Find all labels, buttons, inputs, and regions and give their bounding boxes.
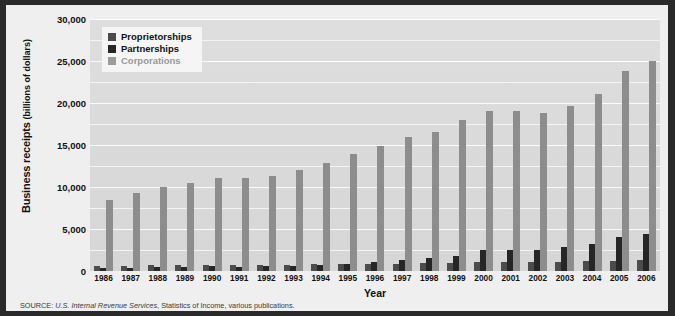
legend-swatch-proprietorships: [108, 33, 116, 41]
bar-group-2001: [497, 19, 524, 271]
source-note: SOURCE: U.S. Internal Revenue Services, …: [20, 301, 295, 310]
bar-corporations-2000: [486, 111, 493, 271]
x-axis-tick-2004: 2004: [579, 273, 606, 287]
x-axis-tick-1998: 1998: [416, 273, 443, 287]
y-axis-tick-0: 0: [30, 266, 86, 277]
bar-corporations-2001: [513, 111, 520, 271]
bar-group-2000: [470, 19, 497, 271]
bar-group-2002: [524, 19, 551, 271]
y-axis-tick-10000: 10,000: [30, 182, 86, 193]
source-rest: , Statistics of Income, various publicat…: [157, 301, 295, 310]
bar-corporations-1993: [296, 170, 303, 271]
x-axis-tick-1988: 1988: [144, 273, 171, 287]
x-axis-tick-1994: 1994: [307, 273, 334, 287]
legend-item-partnerships: Partnerships: [108, 43, 192, 55]
bar-corporations-1995: [350, 154, 357, 271]
bar-corporations-1996: [377, 146, 384, 271]
bar-corporations-1990: [215, 178, 222, 271]
bar-corporations-1987: [133, 193, 140, 271]
bar-group-1994: [307, 19, 334, 271]
bar-group-1993: [280, 19, 307, 271]
legend-swatch-corporations: [108, 57, 116, 65]
bar-group-2006: [633, 19, 660, 271]
legend-label-proprietorships: Proprietorships: [121, 31, 192, 43]
bar-corporations-1988: [160, 187, 167, 271]
y-axis-tick-20000: 20,000: [30, 98, 86, 109]
x-axis-tick-1993: 1993: [280, 273, 307, 287]
x-axis-tick-1987: 1987: [117, 273, 144, 287]
x-axis-tick-2006: 2006: [633, 273, 660, 287]
bar-corporations-2005: [622, 71, 629, 271]
bar-group-1996: [361, 19, 388, 271]
x-axis-tick-labels: 1986198719881989199019911992199319941995…: [90, 273, 660, 287]
bar-group-1999: [443, 19, 470, 271]
bar-group-2003: [551, 19, 578, 271]
bar-corporations-1991: [242, 178, 249, 271]
legend-label-corporations: Corporations: [121, 55, 181, 67]
legend-item-proprietorships: Proprietorships: [108, 31, 192, 43]
x-axis-tick-1995: 1995: [334, 273, 361, 287]
bar-corporations-2006: [649, 61, 656, 271]
bar-corporations-1992: [269, 176, 276, 271]
legend-swatch-partnerships: [108, 45, 116, 53]
x-axis-tick-1986: 1986: [90, 273, 117, 287]
x-axis-tick-1990: 1990: [199, 273, 226, 287]
legend-label-partnerships: Partnerships: [121, 43, 179, 55]
x-axis-title: Year: [90, 287, 660, 299]
bar-group-1990: [199, 19, 226, 271]
bar-corporations-1998: [432, 132, 439, 271]
bar-group-2004: [579, 19, 606, 271]
bar-group-1998: [416, 19, 443, 271]
y-axis-tick-5000: 5,000: [30, 224, 86, 235]
bar-group-1992: [253, 19, 280, 271]
bar-corporations-2004: [595, 94, 602, 271]
bar-group-1991: [226, 19, 253, 271]
x-axis-tick-1996: 1996: [361, 273, 388, 287]
y-axis-tick-25000: 25,000: [30, 56, 86, 67]
chart-legend: ProprietorshipsPartnershipsCorporations: [102, 27, 202, 72]
bar-corporations-1986: [106, 200, 113, 271]
bar-corporations-1997: [405, 137, 412, 271]
x-axis-tick-2005: 2005: [606, 273, 633, 287]
x-axis-tick-2003: 2003: [551, 273, 578, 287]
bar-group-1997: [389, 19, 416, 271]
frame-border-bottom: [0, 311, 675, 316]
legend-item-corporations: Corporations: [108, 55, 192, 67]
x-axis-tick-2001: 2001: [497, 273, 524, 287]
bar-corporations-1999: [459, 120, 466, 271]
x-axis-tick-2000: 2000: [470, 273, 497, 287]
bar-corporations-1994: [323, 163, 330, 271]
frame-border-right: [668, 0, 675, 316]
x-axis-tick-1991: 1991: [226, 273, 253, 287]
source-prefix: SOURCE:: [20, 301, 53, 310]
bar-corporations-1989: [187, 183, 194, 271]
x-axis-tick-1992: 1992: [253, 273, 280, 287]
y-axis-tick-labels: 05,00010,00015,00020,00025,00030,000: [30, 5, 86, 271]
y-axis-tick-30000: 30,000: [30, 14, 86, 25]
bar-corporations-2002: [540, 113, 547, 271]
plot-area: ProprietorshipsPartnershipsCorporations: [90, 19, 660, 271]
y-axis-tick-15000: 15,000: [30, 140, 86, 151]
bar-group-2005: [606, 19, 633, 271]
source-publisher: U.S. Internal Revenue Services: [55, 301, 157, 310]
chart-figure: Business receipts (billions of dollars) …: [6, 5, 668, 311]
x-axis-tick-1997: 1997: [389, 273, 416, 287]
x-axis-tick-2002: 2002: [524, 273, 551, 287]
bar-corporations-2003: [567, 106, 574, 271]
bar-group-1995: [334, 19, 361, 271]
x-axis-tick-1999: 1999: [443, 273, 470, 287]
x-axis-tick-1989: 1989: [171, 273, 198, 287]
